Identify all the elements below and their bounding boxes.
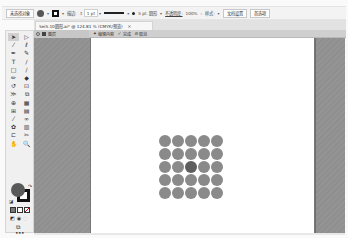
opacity-label[interactable]: 不透明度: <box>165 10 182 16</box>
width-tool-icon[interactable]: ≫ <box>8 90 19 98</box>
circle[interactable] <box>185 148 197 160</box>
canvas-bottom-border <box>34 233 345 235</box>
back-arrow-icon[interactable] <box>36 32 40 36</box>
pen-tool-icon[interactable]: ✒ <box>8 49 19 57</box>
fill-dropdown-icon[interactable]: ▾ <box>47 11 49 16</box>
circle[interactable] <box>211 174 223 186</box>
circle[interactable] <box>211 148 223 160</box>
circle[interactable] <box>159 187 171 199</box>
artboard-edge <box>315 38 316 233</box>
circle[interactable] <box>198 187 210 199</box>
brush-definition[interactable]: 5 pt. 圆形 <box>138 10 157 16</box>
circle[interactable] <box>211 187 223 199</box>
brush-dot-icon <box>132 12 135 15</box>
circle[interactable] <box>172 161 184 173</box>
eyedropper-tool-icon[interactable]: ⁄ <box>8 115 19 123</box>
circle[interactable] <box>185 174 197 186</box>
artboard-tool-icon[interactable]: ⊏ <box>8 131 19 139</box>
circle[interactable] <box>185 187 197 199</box>
circle[interactable] <box>172 135 184 147</box>
type-tool-icon[interactable]: T <box>8 58 19 66</box>
draw-inside-icon[interactable]: ◌ <box>23 215 27 221</box>
control-bar: 未选择对象 ▾ ▾ 描边: ⇕ 1 pt ▾ ▾ 5 pt. 圆形 ▾ 不透明度… <box>2 6 346 20</box>
circle[interactable] <box>159 161 171 173</box>
circle[interactable] <box>172 174 184 186</box>
stroke-swatch[interactable] <box>52 10 59 17</box>
artboard[interactable] <box>90 38 315 233</box>
gradient-mode-icon[interactable] <box>17 207 23 213</box>
style-dropdown-icon[interactable]: ▾ <box>218 11 220 16</box>
hand-tool-icon[interactable]: ✋ <box>8 139 19 147</box>
edit-contents-button[interactable]: ✦ 编辑内容 <box>93 31 114 37</box>
stroke-dropdown-icon[interactable]: ▾ <box>62 11 64 16</box>
center-circle[interactable] <box>185 161 197 173</box>
circle[interactable] <box>172 148 184 160</box>
circle[interactable] <box>159 148 171 160</box>
shaper-tool-icon[interactable]: ◆ <box>21 74 32 82</box>
circle[interactable] <box>185 135 197 147</box>
circle[interactable] <box>211 161 223 173</box>
style-label: 样式: <box>205 10 214 16</box>
zoom-tool-icon[interactable]: 🔍 <box>21 139 32 147</box>
curvature-tool-icon[interactable]: ✎ <box>21 49 32 57</box>
draw-behind-icon[interactable]: ◉ <box>17 215 21 221</box>
variable-width-profile[interactable] <box>104 12 124 14</box>
scale-tool-icon[interactable]: ⊡ <box>21 82 32 90</box>
perspective-grid-tool-icon[interactable]: ▦ <box>21 99 32 107</box>
selection-tool-icon[interactable]: ➤ <box>8 33 19 41</box>
rectangle-tool-icon[interactable]: □ <box>8 66 19 74</box>
brush-dropdown-icon[interactable]: ▾ <box>160 11 162 16</box>
default-colors-icon[interactable]: ◪ <box>9 199 13 204</box>
draw-normal-icon[interactable]: ◩ <box>10 215 15 221</box>
pencil-tool-icon[interactable]: ✏ <box>8 74 19 82</box>
selection-status-button[interactable]: 未选择对象 <box>6 9 34 18</box>
direct-selection-tool-icon[interactable]: ▷ <box>21 33 32 41</box>
done-button[interactable]: ✓ 完成 <box>118 31 131 37</box>
stepper-arrows-icon[interactable]: ⇕ <box>79 11 82 16</box>
opacity-value[interactable]: 100% <box>186 11 198 16</box>
document-setup-button[interactable]: 文档设置 <box>223 9 247 18</box>
check-icon: ✓ <box>118 31 122 36</box>
fill-color-swatch[interactable] <box>11 183 25 197</box>
circle[interactable] <box>198 148 210 160</box>
none-mode-icon[interactable] <box>24 207 30 213</box>
slice-tool-icon[interactable]: ✂ <box>21 131 32 139</box>
canvas-pasteboard[interactable] <box>34 38 345 233</box>
cancel-label: 取消 <box>139 31 147 37</box>
preferences-button[interactable]: 首选项 <box>250 9 270 18</box>
cancel-button[interactable]: ⊘ 取消 <box>135 31 148 37</box>
isolation-actions: ✦ 编辑内容 ✓ 完成 ⊘ 取消 <box>89 31 147 37</box>
circle[interactable] <box>159 174 171 186</box>
edit-toolbar-button[interactable]: ••• <box>15 229 24 236</box>
stroke-weight-stepper[interactable]: ⇕ 1 pt ▾ <box>79 9 101 17</box>
column-graph-tool-icon[interactable]: ▥ <box>21 123 32 131</box>
circle[interactable] <box>159 135 171 147</box>
gradient-tool-icon[interactable]: ▤ <box>21 107 32 115</box>
cancel-icon: ⊘ <box>135 31 139 36</box>
close-tab-icon[interactable]: × <box>128 24 132 29</box>
blend-tool-icon[interactable]: ∞ <box>21 115 32 123</box>
mesh-tool-icon[interactable]: ⊞ <box>8 107 19 115</box>
circle[interactable] <box>172 187 184 199</box>
color-mode-icon[interactable] <box>10 207 16 213</box>
isolation-mode-bar: 图层 ✦ 编辑内容 ✓ 完成 ⊘ 取消 <box>34 30 346 38</box>
opacity-arrow-icon[interactable]: › <box>201 11 203 16</box>
free-transform-tool-icon[interactable]: ⧉ <box>21 90 32 98</box>
circle[interactable] <box>198 174 210 186</box>
stroke-label[interactable]: 描边: <box>67 10 76 16</box>
isolation-breadcrumb[interactable]: 图层 <box>34 30 89 38</box>
circle[interactable] <box>211 135 223 147</box>
stroke-weight-dropdown-icon[interactable]: ▾ <box>99 11 101 16</box>
fill-swatch[interactable] <box>37 10 44 17</box>
circle[interactable] <box>198 161 210 173</box>
circle[interactable] <box>198 135 210 147</box>
symbol-sprayer-tool-icon[interactable]: ✿ <box>8 123 19 131</box>
paintbrush-tool-icon[interactable]: ∕ <box>21 66 32 74</box>
stroke-weight-input[interactable]: 1 pt <box>84 9 98 17</box>
rotate-tool-icon[interactable]: ↺ <box>8 82 19 90</box>
lasso-tool-icon[interactable]: ℓ <box>21 41 32 49</box>
shape-builder-tool-icon[interactable]: ⊕ <box>8 99 19 107</box>
profile-dropdown-icon[interactable]: ▾ <box>127 11 129 16</box>
line-tool-icon[interactable]: / <box>21 58 32 66</box>
magic-wand-tool-icon[interactable]: ⁄ <box>8 41 19 49</box>
